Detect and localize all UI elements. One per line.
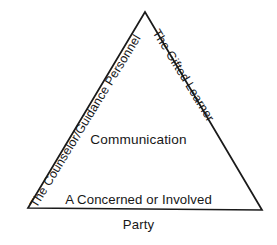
communication-triangle-diagram: The Counselor/Guidance Personnel The Gif… <box>0 0 277 245</box>
base-label-line-2: Party <box>0 218 277 231</box>
base-label-line-1: A Concerned or Involved <box>0 193 277 206</box>
center-label-communication: Communication <box>0 133 277 147</box>
triangle-shape <box>28 12 262 210</box>
